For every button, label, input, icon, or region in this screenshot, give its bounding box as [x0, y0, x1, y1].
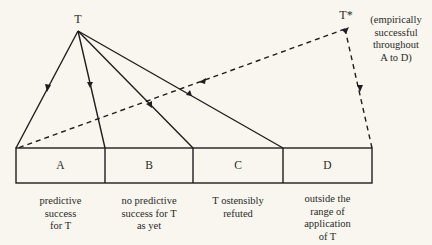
successor-label: T*: [336, 9, 356, 22]
successor-arrowheads: [199, 27, 363, 92]
domain-a-letter: A: [16, 159, 105, 172]
arrow-icon: [199, 78, 206, 84]
line-t-to-b: [78, 31, 105, 148]
domain-b-caption: no predictive success for T as yet: [105, 195, 193, 233]
arrow-icon: [342, 27, 349, 34]
domain-d-letter: D: [283, 159, 372, 172]
domain-d-caption: outside the range of application of T: [283, 193, 372, 243]
theory-arrowheads: [45, 82, 192, 108]
theory-lines: [16, 31, 283, 148]
arrow-icon: [357, 85, 363, 92]
successor-lines: [18, 29, 372, 148]
arrow-icon: [87, 82, 93, 88]
domain-a-caption: predictive success for T: [16, 195, 105, 233]
domain-b-letter: B: [105, 159, 193, 172]
domain-c-letter: C: [193, 159, 283, 172]
successor-note: (empirically successful throughout A to …: [360, 14, 432, 64]
domain-c-caption: T ostensibly refuted: [193, 195, 283, 220]
dashed-line-tstar-to-a: [18, 29, 345, 148]
line-t-to-c: [78, 31, 193, 148]
theory-label: T: [71, 13, 85, 26]
